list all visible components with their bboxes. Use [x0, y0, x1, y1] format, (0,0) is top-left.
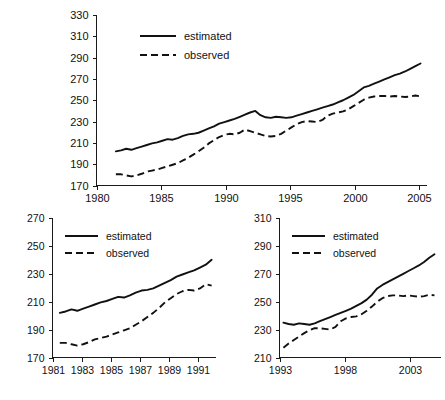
legend-label-estimated: estimated — [106, 230, 152, 242]
x-tick-label: 1983 — [71, 364, 95, 376]
y-tick-label: 310 — [254, 212, 272, 224]
y-tick-label: 270 — [254, 268, 272, 280]
x-tick-label: 1985 — [149, 192, 173, 204]
line-series-estimated — [60, 260, 212, 313]
line-series-observed — [283, 295, 434, 348]
y-tick-label: 290 — [254, 240, 272, 252]
line-series-estimated — [283, 254, 434, 324]
chart-panel-full-period: 170190210230250270290310330 198019851990… — [78, 8, 433, 208]
y-tick-labels: 170190210230250270 — [27, 212, 45, 364]
y-tick-label: 230 — [254, 324, 272, 336]
axes-full-period: 170190210230250270290310330 198019851990… — [70, 9, 432, 203]
legend-label-estimated: estimated — [333, 230, 379, 242]
data-series-group-early-period — [60, 260, 212, 346]
multi-panel-line-chart-figure: 170190210230250270290310330 198019851990… — [0, 0, 445, 400]
x-tick-labels: 198119831985198719891991 — [42, 364, 211, 376]
x-tick-label: 1985 — [100, 364, 124, 376]
y-tick-label: 250 — [70, 94, 88, 106]
y-tick-labels: 210230250270290310 — [254, 212, 272, 364]
x-tick-labels: 199319982003 — [269, 364, 423, 376]
x-tick-marks — [281, 358, 411, 362]
x-tick-label: 2005 — [407, 192, 431, 204]
line-series-observed — [116, 95, 421, 176]
chart-svg-full-period: 170190210230250270290310330 198019851990… — [78, 8, 433, 208]
legend-late-period: estimated observed — [292, 230, 379, 259]
chart-panel-late-period: 210230250270290310 199319982003 estimate… — [235, 212, 445, 392]
x-tick-label: 1998 — [334, 364, 358, 376]
x-tick-label: 2000 — [343, 192, 367, 204]
y-tick-marks — [49, 219, 53, 359]
chart-svg-late-period: 210230250270290310 199319982003 estimate… — [235, 212, 445, 392]
y-tick-label: 230 — [70, 116, 88, 128]
x-tick-marks — [98, 186, 420, 190]
y-tick-label: 290 — [70, 52, 88, 64]
y-tick-label: 210 — [254, 352, 272, 364]
y-tick-label: 170 — [27, 352, 45, 364]
x-tick-label: 1989 — [158, 364, 182, 376]
x-tick-label: 1981 — [42, 364, 66, 376]
y-tick-label: 330 — [70, 9, 88, 21]
x-tick-label: 1993 — [269, 364, 293, 376]
y-tick-marks — [93, 16, 97, 187]
x-tick-marks — [54, 358, 199, 362]
chart-panel-early-period: 170190210230250270 198119831985198719891… — [8, 212, 220, 392]
legend-label-observed: observed — [333, 247, 376, 259]
legend-early-period: estimated observed — [65, 230, 152, 259]
y-tick-label: 270 — [27, 212, 45, 224]
x-tick-label: 1987 — [129, 364, 153, 376]
x-tick-labels: 198019851990199520002005 — [85, 192, 431, 204]
y-tick-label: 190 — [70, 158, 88, 170]
legend-label-observed: observed — [184, 49, 229, 61]
y-tick-labels: 170190210230250270290310330 — [70, 9, 88, 192]
x-tick-label: 1990 — [214, 192, 238, 204]
y-tick-label: 250 — [27, 240, 45, 252]
y-tick-label: 310 — [70, 30, 88, 42]
x-tick-label: 2003 — [399, 364, 423, 376]
data-series-group-late-period — [283, 254, 434, 347]
data-series-group-full-period — [116, 63, 421, 176]
line-series-estimated — [116, 63, 421, 151]
y-tick-label: 210 — [70, 137, 88, 149]
y-tick-label: 250 — [254, 296, 272, 308]
y-tick-label: 190 — [27, 324, 45, 336]
x-tick-label: 1980 — [85, 192, 109, 204]
legend-label-observed: observed — [106, 247, 149, 259]
x-tick-label: 1991 — [187, 364, 211, 376]
y-tick-label: 210 — [27, 296, 45, 308]
y-tick-marks — [276, 219, 280, 359]
legend-full-period: estimated observed — [140, 30, 232, 61]
y-tick-label: 270 — [70, 73, 88, 85]
legend-label-estimated: estimated — [184, 30, 232, 42]
y-tick-label: 230 — [27, 268, 45, 280]
x-tick-label: 1995 — [278, 192, 302, 204]
chart-svg-early-period: 170190210230250270 198119831985198719891… — [8, 212, 220, 392]
y-tick-label: 170 — [70, 180, 88, 192]
